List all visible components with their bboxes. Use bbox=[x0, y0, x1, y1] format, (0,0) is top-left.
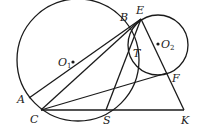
label-o1: O1 bbox=[58, 56, 72, 70]
label-t: T bbox=[133, 47, 142, 60]
label-e: E bbox=[135, 4, 144, 17]
label-c: C bbox=[30, 113, 39, 126]
label-f: F bbox=[171, 72, 180, 85]
label-b: B bbox=[119, 11, 128, 24]
label-k: K bbox=[180, 114, 190, 127]
center-o2-dot bbox=[156, 42, 159, 45]
label-o2: O2 bbox=[161, 38, 175, 52]
segment-cf bbox=[41, 73, 167, 110]
label-s: S bbox=[103, 114, 111, 127]
label-a: A bbox=[16, 93, 25, 106]
segment-ce bbox=[41, 19, 141, 110]
geometry-figure: O1 O2 A C B E T F S K bbox=[0, 0, 199, 132]
center-o1-dot bbox=[71, 60, 74, 63]
segment-ek bbox=[141, 19, 184, 110]
